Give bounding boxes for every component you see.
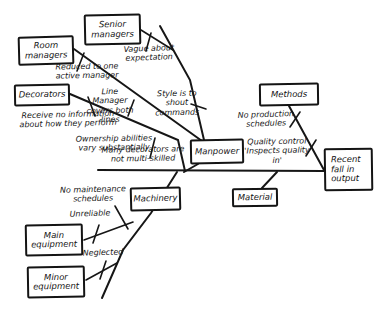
main-equipment-box: Main equipment [25, 223, 84, 256]
no-maintenance-label: No maintenance schedules [57, 184, 129, 205]
decorators-box: Decorators [14, 84, 70, 107]
receive-label: Receive no information about how they pe… [12, 109, 124, 131]
senior-managers-box: Senior managers [84, 13, 142, 45]
spine-line [98, 170, 324, 171]
manpower-box: Manpower [190, 139, 244, 165]
minor-equipment-line [86, 263, 117, 280]
multi-skilled-label: Many decorators are not multi-skilled [96, 144, 190, 165]
neglected-label: Neglected [82, 247, 124, 258]
vague-label: Vague about expectation [120, 43, 179, 64]
material-connector [262, 172, 277, 188]
quality-label: Quality control 'Inspects quality in' [243, 136, 311, 165]
methods-box: Methods [259, 83, 319, 107]
machinery-box: Machinery [130, 186, 182, 211]
unreliable-label: Unreliable [66, 208, 114, 219]
effect-box: Recent fall in output [324, 148, 374, 192]
style-label: Style is to shout commands [151, 89, 203, 118]
no-production-label: No production schedules [237, 109, 296, 130]
material-box: Material [232, 188, 278, 208]
minor-equipment-box: Minor equipment [27, 265, 86, 298]
reduced-label: Reduced to one active manager [52, 61, 122, 81]
room-managers-box: Room managers [18, 35, 75, 65]
fishbone-diagram: Senior managers Room managers Decorators… [0, 0, 391, 316]
